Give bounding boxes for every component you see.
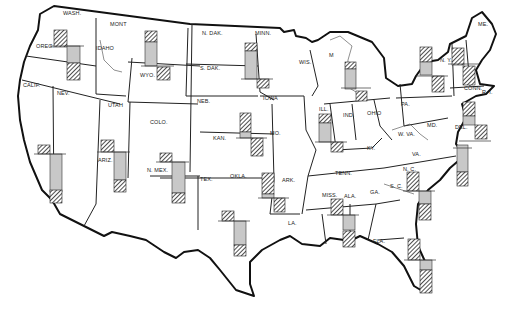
state-label-ca: CALIF. [23, 82, 40, 88]
state-label-nd: N. DAK. [202, 30, 223, 36]
state-label-oh: OHIO [367, 110, 382, 116]
state-label-mi: M [329, 52, 334, 58]
hatched-bar [407, 172, 419, 191]
state-label-la: LA. [288, 220, 297, 226]
grey-bar [240, 132, 251, 138]
grey-bar [420, 260, 432, 270]
hatched-bar [356, 91, 367, 101]
state-label-me: ME. [478, 21, 488, 27]
state-label-ut: UTAH [108, 102, 123, 108]
state-label-wy: WYO. [140, 72, 155, 78]
bar-ny-w [416, 47, 448, 92]
grey-bar [145, 42, 157, 66]
hatched-bar [319, 114, 331, 123]
hatched-bar [67, 63, 80, 80]
grey-bar [114, 152, 126, 180]
hatched-bar [419, 204, 431, 220]
hatched-bar [38, 145, 50, 154]
hatched-bar [222, 211, 234, 221]
state-label-nv: NEV. [57, 90, 70, 96]
state-label-ne: NEB. [197, 98, 211, 104]
hatched-bar [452, 48, 464, 65]
state-label-al: ALA. [344, 193, 357, 199]
grey-bar [463, 116, 475, 125]
state-label-ct: CONN. [464, 85, 483, 91]
state-label-id: IDAHO [96, 45, 115, 51]
bar-ne-ks [236, 113, 267, 156]
state-label-mn: MINN. [255, 30, 271, 36]
state-label-in: IND. [343, 112, 355, 118]
hatched-bar [432, 76, 444, 92]
grey-bar [245, 51, 257, 79]
hatched-bar [262, 173, 274, 194]
grey-bar [234, 221, 246, 245]
grey-bar [345, 69, 356, 89]
bar-nc-sc [403, 172, 435, 220]
hatched-bar [475, 125, 487, 139]
state-label-pa: PA. [401, 101, 410, 107]
state-label-nc: N. C. [403, 166, 416, 172]
hatched-bar [331, 199, 343, 215]
grey-bar [50, 154, 62, 192]
hatched-bar [420, 270, 432, 293]
grey-bar [343, 215, 355, 230]
state-label-il: ILL. [319, 106, 329, 112]
state-label-ny: N. Y. [440, 57, 452, 63]
hatched-bar [420, 47, 432, 62]
state-label-wa: WASH. [63, 10, 82, 16]
bar-tx [218, 211, 250, 256]
hatched-bar [160, 153, 172, 162]
grey-bar [420, 62, 432, 75]
hatched-bar [157, 67, 170, 80]
grey-bar [172, 162, 185, 193]
grey-bar [419, 191, 431, 204]
hatched-bar [145, 31, 157, 42]
hatched-bar [345, 62, 356, 69]
bar-mn-sd [241, 43, 273, 88]
state-label-ga: GA. [370, 189, 380, 195]
hatched-bar [343, 231, 355, 247]
hatched-bar [114, 180, 126, 192]
state-label-az: ARIZ. [98, 157, 113, 163]
hatched-bar [257, 79, 269, 88]
bar-nj-de [459, 102, 491, 141]
grey-bar [67, 46, 80, 63]
state-label-ar: ARK. [282, 177, 296, 183]
us-map: WASH. OREG. CALIF. NEV. IDAHO MONT WYO. … [0, 0, 509, 312]
hatched-bar [463, 66, 475, 85]
grey-bar [457, 145, 468, 172]
bar-ut-az [97, 140, 130, 192]
bar-md-coast [453, 145, 472, 186]
state-label-co: COLO. [150, 119, 168, 125]
state-label-nm: N. MEX. [147, 167, 169, 173]
state-label-ok: OKLA. [230, 173, 247, 179]
state-label-wv: W. VA. [398, 131, 415, 137]
state-label-sc: S. C. [390, 183, 403, 189]
bar-mi [341, 62, 371, 101]
state-label-tn: TENN. [335, 170, 352, 176]
hatched-bar [54, 30, 67, 47]
hatched-bar [101, 140, 114, 152]
state-label-sd: S. DAK. [200, 65, 221, 71]
bar-wa-or [50, 30, 84, 80]
state-label-tx: TEX. [200, 176, 213, 182]
hatched-bar [172, 193, 185, 203]
hatched-bar [463, 102, 475, 116]
state-label-ks: KAN. [213, 135, 227, 141]
bar-ca [34, 145, 66, 203]
state-label-ia: IOWA [263, 95, 278, 101]
hatched-bar [331, 142, 343, 152]
grey-bar [262, 194, 274, 198]
hatched-bar [457, 172, 468, 186]
hatched-bar [234, 245, 246, 256]
state-label-mt: MONT [110, 21, 127, 27]
hatched-bar [251, 138, 263, 156]
state-label-ms: MISS. [322, 192, 338, 198]
bar-fl [404, 239, 436, 293]
hatched-bar [408, 239, 420, 260]
hatched-bar [50, 190, 62, 203]
state-label-ri: R. I. [482, 89, 493, 95]
hatched-bar [245, 43, 257, 51]
state-label-mo: MO. [270, 130, 281, 136]
state-label-fl: FLA. [373, 238, 385, 244]
